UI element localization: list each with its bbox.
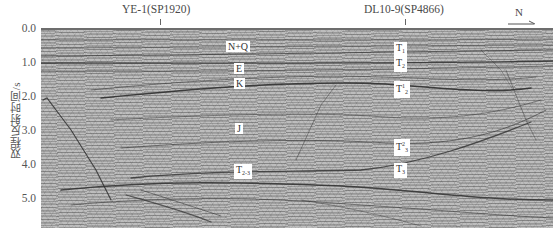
horizon-label-t1: T1 xyxy=(394,42,407,57)
seismic-figure: YE-1(SP1920) DL10-9(SP4866) N 0.0 1.0 2.… xyxy=(0,0,560,235)
well-label-ye1: YE-1(SP1920) xyxy=(122,3,190,15)
y-tick-5: 5.0 xyxy=(12,192,36,204)
well-tick-dl10-9 xyxy=(405,19,406,25)
y-tick-1: 1.0 xyxy=(12,56,36,68)
horizon-label-t3-2: T23 xyxy=(394,139,410,156)
formation-label-t2-3: T2-3 xyxy=(234,164,252,179)
formation-label-nq: N+Q xyxy=(226,41,250,52)
horizon-label-t2-1: T12 xyxy=(394,81,410,98)
horizon-label-t3: T3 xyxy=(394,163,407,178)
reflector-lines xyxy=(41,30,553,228)
horizon-label-t2: T2 xyxy=(394,57,407,72)
formation-label-j: J xyxy=(235,123,243,134)
north-label: N xyxy=(515,6,523,18)
seismic-panel xyxy=(41,28,553,228)
y-tick-0: 0.0 xyxy=(12,22,36,34)
well-label-dl10-9: DL10-9(SP4866) xyxy=(364,3,444,15)
formation-label-e: E xyxy=(234,63,244,74)
y-tick-4: 4.0 xyxy=(12,158,36,170)
north-arrow-icon xyxy=(508,20,536,26)
formation-label-k: K xyxy=(234,78,245,89)
well-tick-ye1 xyxy=(160,19,161,25)
y-axis-label: 双程反射时间/s xyxy=(8,82,24,159)
